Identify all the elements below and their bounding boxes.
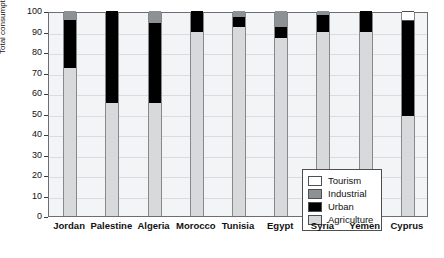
legend-item[interactable]: Industrial [308, 187, 373, 200]
bar-segment-urban [64, 20, 76, 68]
y-axis-tick-label: 30 [18, 151, 42, 160]
y-axis-tick-label: 90 [18, 28, 42, 37]
legend-label-tourism: Tourism [328, 176, 361, 186]
stacked-bar-palestine[interactable] [105, 13, 119, 216]
bar-segment-urban [106, 11, 118, 103]
bar-segment-agriculture [402, 116, 414, 216]
legend-item[interactable]: Tourism [308, 174, 373, 187]
y-axis-tick-label: 20 [18, 171, 42, 180]
x-axis-label-morocco: Morocco [176, 220, 216, 231]
bar-group[interactable] [190, 13, 204, 216]
y-axis-tick-mark [44, 217, 48, 218]
stacked-bar-algeria[interactable] [148, 13, 162, 216]
y-axis-tick-label: 100 [18, 7, 42, 16]
bar-segment-urban [149, 23, 161, 103]
y-axis-tick-label: 40 [18, 130, 42, 139]
x-axis-label-palestine: Palestine [90, 220, 132, 231]
bar-segment-agriculture [191, 32, 203, 217]
bar-segment-industrial [275, 11, 287, 27]
bar-segment-urban [233, 17, 245, 27]
stacked-bar-morocco[interactable] [190, 13, 204, 216]
x-axis-label-jordan: Jordan [53, 220, 85, 231]
x-axis-label-tunisia: Tunisia [222, 220, 255, 231]
bar-segment-industrial [64, 11, 76, 20]
bar-segment-urban [317, 15, 329, 31]
x-axis-label-egypt: Egypt [267, 220, 293, 231]
bar-segment-industrial [317, 11, 329, 15]
bar-segment-urban [402, 21, 414, 115]
bar-segment-agriculture [64, 68, 76, 216]
legend-label-urban: Urban [328, 202, 354, 212]
bar-group[interactable] [401, 13, 415, 216]
stacked-bar-chart: Total consumption (%) 010203040506070809… [0, 0, 444, 258]
bar-segment-agriculture [106, 103, 118, 216]
y-axis-tick-label: 60 [18, 89, 42, 98]
bar-segment-urban [275, 27, 287, 37]
y-axis-title: Total consumption (%) [0, 0, 7, 54]
bar-segment-urban [360, 11, 372, 32]
plot-area: TourismIndustrialUrbanAgriculture [48, 12, 428, 217]
bar-segment-industrial [233, 11, 245, 17]
legend-swatch-tourism [308, 176, 322, 186]
legend-label-industrial: Industrial [328, 189, 367, 199]
bar-segment-agriculture [233, 27, 245, 216]
stacked-bar-cyprus[interactable] [401, 13, 415, 216]
bar-group[interactable] [63, 13, 77, 216]
y-axis-tick-label: 50 [18, 110, 42, 119]
legend-swatch-urban [308, 202, 322, 212]
bar-group[interactable] [274, 13, 288, 216]
bar-segment-industrial [149, 11, 161, 23]
bar-segment-tourism [402, 11, 414, 21]
y-axis-tick-label: 0 [18, 212, 42, 221]
bar-group[interactable] [105, 13, 119, 216]
legend-item[interactable]: Urban [308, 200, 373, 213]
x-axis-label-algeria: Algeria [137, 220, 169, 231]
bar-group[interactable] [232, 13, 246, 216]
x-axis-label-syria: Syria [311, 220, 334, 231]
y-axis-tick-label: 70 [18, 69, 42, 78]
stacked-bar-tunisia[interactable] [232, 13, 246, 216]
y-axis-tick-label: 10 [18, 192, 42, 201]
x-axis-label-cyprus: Cyprus [391, 220, 424, 231]
bar-segment-urban [191, 11, 203, 32]
y-axis-tick-label: 80 [18, 48, 42, 57]
legend-swatch-industrial [308, 189, 322, 199]
stacked-bar-egypt[interactable] [274, 13, 288, 216]
bar-segment-agriculture [275, 38, 287, 216]
bar-group[interactable] [148, 13, 162, 216]
x-axis-label-yemen: Yemen [349, 220, 380, 231]
stacked-bar-jordan[interactable] [63, 13, 77, 216]
bar-segment-agriculture [149, 103, 161, 216]
